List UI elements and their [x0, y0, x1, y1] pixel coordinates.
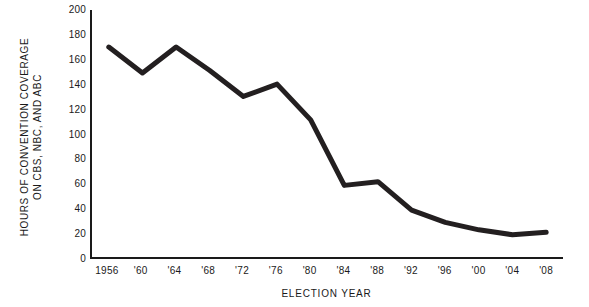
x-axis-tick-label: '80: [303, 265, 317, 276]
chart-container: HOURS OF CONVENTION COVERAGE ON CBS, NBC…: [0, 0, 589, 307]
line-series: [92, 10, 563, 257]
x-axis-tick-label: '96: [438, 265, 452, 276]
plot-area: [90, 10, 563, 259]
y-axis-title-line-1: HOURS OF CONVENTION COVERAGE: [19, 38, 30, 236]
x-axis-tick-label: '88: [370, 265, 384, 276]
x-axis-tick-label: '84: [336, 265, 350, 276]
y-axis-tick-labels: 020406080100120140160180200: [58, 10, 86, 259]
x-axis-tick-label: '00: [472, 265, 486, 276]
y-axis-tick-label: 200: [60, 5, 86, 15]
y-axis-tick-label: 0: [60, 254, 86, 264]
y-axis-tick-label: 180: [60, 30, 86, 40]
x-axis-tick-labels: 1956'60'64'68'72'76'80'84'88'92'96'00'04…: [90, 265, 563, 279]
x-axis-tick-label: '72: [235, 265, 249, 276]
series-polyline: [109, 47, 546, 235]
x-axis-title: ELECTION YEAR: [90, 288, 563, 299]
y-axis-tick-label: 60: [60, 179, 86, 189]
x-axis-tick-label: '60: [134, 265, 148, 276]
y-axis-title-line-2: ON CBS, NBC, AND ABC: [31, 12, 44, 262]
y-axis-tick-label: 120: [60, 105, 86, 115]
y-axis-tick-label: 80: [60, 154, 86, 164]
x-axis-tick-label: '76: [269, 265, 283, 276]
x-axis-tick-label: '08: [539, 265, 553, 276]
x-axis-tick-label: '04: [505, 265, 519, 276]
y-axis-tick-label: 140: [60, 80, 86, 90]
y-axis-tick-label: 20: [60, 229, 86, 239]
y-axis-tick-label: 40: [60, 204, 86, 214]
y-axis-tick-label: 100: [60, 130, 86, 140]
x-axis-tick-label: 1956: [95, 265, 118, 276]
x-axis-tick-label: '92: [404, 265, 418, 276]
x-axis-tick-label: '64: [167, 265, 181, 276]
x-axis-tick-label: '68: [201, 265, 215, 276]
y-axis-title: HOURS OF CONVENTION COVERAGE ON CBS, NBC…: [18, 12, 44, 262]
y-axis-tick-label: 160: [60, 55, 86, 65]
